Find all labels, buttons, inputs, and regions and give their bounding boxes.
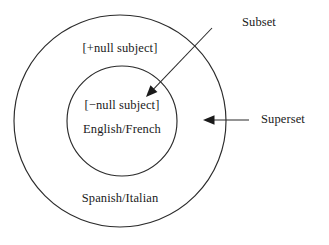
inner-set-feature-label: [−null subject]	[85, 98, 160, 113]
outer-set-feature-label: [+null subject]	[83, 41, 158, 56]
outer-set-languages-label: Spanish/Italian	[82, 191, 159, 206]
inner-set-languages-label: English/French	[83, 122, 161, 137]
superset-arrow-head	[203, 115, 215, 125]
subset-callout-label: Subset	[242, 15, 276, 30]
venn-diagram-canvas: [+null subject] [−null subject] English/…	[0, 0, 329, 245]
subset-annotation-arrow	[146, 28, 212, 97]
superset-callout-label: Superset	[261, 112, 305, 127]
subset-arrow-line	[152, 28, 212, 91]
